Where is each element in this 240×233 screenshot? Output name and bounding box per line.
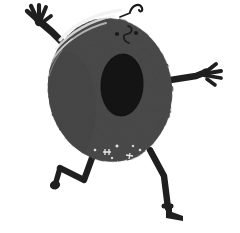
eye-right-icon (134, 31, 138, 35)
speckle-3 (116, 145, 118, 147)
speckle-4 (94, 149, 96, 151)
highlight-stroke-7 (108, 11, 122, 12)
speckle-5 (139, 149, 141, 151)
speckle-7 (132, 145, 134, 147)
illustration-canvas: Singing blob character illustration (0, 0, 240, 233)
speckle-6 (111, 157, 113, 159)
singing-blob-illustration: Singing blob character illustration (0, 0, 240, 233)
finger-right-3 (209, 76, 221, 78)
eye-left-icon (115, 32, 119, 36)
palm-left (35, 18, 43, 26)
finger-right-2 (209, 71, 221, 73)
leg-left-ankle (56, 168, 60, 182)
